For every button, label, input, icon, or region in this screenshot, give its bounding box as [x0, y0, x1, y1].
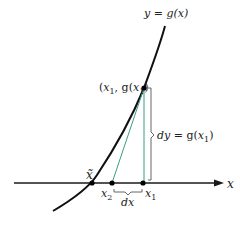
- point-x2: [109, 180, 114, 185]
- x2-label: x2: [101, 187, 112, 202]
- x1-label: x1: [145, 187, 156, 202]
- dx-label: dx: [121, 196, 135, 209]
- point-x1: [140, 180, 145, 185]
- root-label: x̃: [86, 168, 93, 182]
- dy-brace: [148, 88, 154, 180]
- point-label: (x1, g(x1): [99, 81, 149, 96]
- x-axis-label: x: [227, 177, 234, 191]
- tangent-line: [112, 88, 144, 183]
- curve-label: y = g(x): [143, 7, 188, 20]
- dx-brace: [114, 189, 142, 195]
- x-axis-arrow-icon: [214, 180, 224, 187]
- dy-label: dy = g(x1): [157, 129, 213, 144]
- diagram-canvas: x y = g(x) dy = g(x1) dx x̃ x2 x1: [0, 0, 240, 228]
- newton-method-figure: x y = g(x) dy = g(x1) dx x̃ x2 x1: [0, 0, 240, 228]
